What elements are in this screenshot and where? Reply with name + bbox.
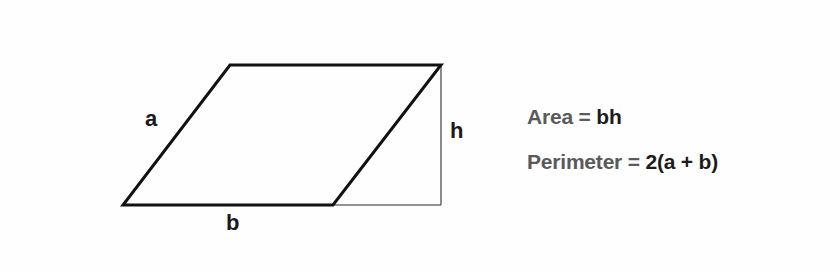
area-formula-name: Area: [527, 105, 573, 128]
parallelogram-shape: [123, 65, 441, 205]
area-formula-equals: =: [579, 105, 591, 128]
area-formula-expression: bh: [596, 105, 621, 128]
perimeter-formula-expression: 2(a + b): [645, 150, 718, 173]
side-label-a: a: [145, 108, 157, 130]
perimeter-formula-name: Perimeter: [527, 150, 622, 173]
area-formula: Area = bh: [527, 106, 622, 127]
base-label-b: b: [226, 212, 239, 234]
parallelogram-diagram: a h b Area = bh Perimeter = 2(a + b): [0, 0, 840, 272]
perimeter-formula-equals: =: [628, 150, 640, 173]
parallelogram-figure: [0, 0, 840, 272]
perimeter-formula: Perimeter = 2(a + b): [527, 151, 718, 172]
height-label-h: h: [450, 120, 463, 142]
